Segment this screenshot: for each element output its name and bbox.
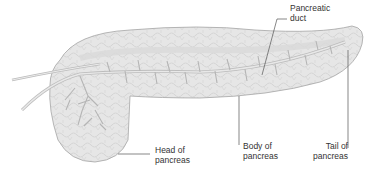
body-of-pancreas-label: Body of pancreas	[243, 141, 278, 161]
head-of-pancreas-label: Head of pancreas	[155, 145, 190, 165]
tail-of-pancreas-label: Tail of pancreas	[310, 141, 348, 161]
pancreatic-duct-label: Pancreatic duct	[290, 3, 330, 23]
